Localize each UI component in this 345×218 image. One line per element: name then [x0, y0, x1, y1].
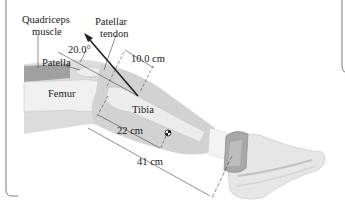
label-tibia: Tibia: [132, 104, 154, 115]
label-patellar: Patellar: [95, 16, 127, 27]
label-tendon: tendon: [100, 28, 129, 39]
label-muscle: muscle: [32, 26, 62, 37]
leader-tendon: [104, 35, 116, 70]
label-angle: 20.0°: [68, 44, 91, 55]
label-distance-center-mass: 22 cm: [117, 125, 143, 136]
leg-torque-diagram: Quadriceps muscle Patellar tendon 20.0° …: [0, 0, 345, 218]
label-distance-tendon: 10.0 cm: [131, 53, 165, 64]
label-quadriceps: Quadriceps: [22, 14, 70, 25]
label-distance-weight: 41 cm: [137, 156, 163, 167]
arrowhead: [84, 33, 93, 42]
label-femur: Femur: [48, 88, 75, 99]
label-patella: Patella: [42, 57, 71, 68]
frame-left-bracket: [6, 0, 18, 196]
